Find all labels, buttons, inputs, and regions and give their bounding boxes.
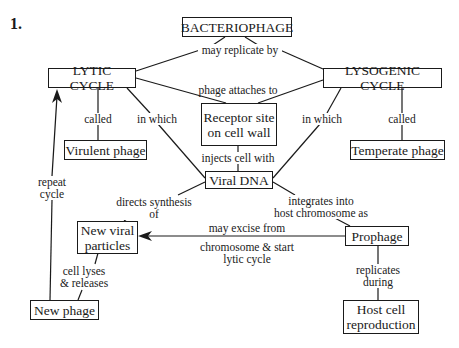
link-lytic-called: called: [83, 113, 113, 125]
link-integrates-into: integrates into host chromosome as: [270, 195, 372, 219]
link-chromosome-start-lytic: chromosome & start lytic cycle: [196, 241, 298, 265]
node-new-viral-particles: New viral particles: [77, 221, 138, 254]
link-lysogenic-in-which: in which: [300, 113, 344, 125]
link-directs-synthesis-of: directs synthesis of: [112, 196, 196, 220]
node-receptor-site: Receptor site on cell wall: [201, 103, 277, 146]
link-may-replicate-by: may replicate by: [198, 44, 282, 56]
link-cell-lyses-releases: cell lyses & releases: [58, 265, 110, 289]
link-phage-attaches-to: phage attaches to: [196, 84, 280, 96]
node-bacteriophage: BACTERIOPHAGE: [182, 17, 292, 37]
node-lytic-cycle: LYTIC CYCLE: [48, 68, 136, 88]
node-viral-dna: Viral DNA: [205, 171, 273, 189]
link-injects-cell-with: injects cell with: [196, 152, 280, 164]
node-temperate-phage: Temperate phage: [350, 140, 445, 160]
node-host-cell-reproduction: Host cell reproduction: [343, 300, 419, 334]
link-lysogenic-called: called: [387, 113, 417, 125]
node-lysogenic-cycle: LYSOGENIC CYCLE: [323, 68, 442, 88]
link-replicates-during: replicates during: [352, 264, 404, 288]
node-new-phage: New phage: [30, 300, 99, 320]
link-lytic-in-which: in which: [135, 113, 179, 125]
node-prophage: Prophage: [345, 226, 409, 246]
problem-number: 1.: [10, 15, 22, 33]
node-virulent-phage: Virulent phage: [64, 140, 147, 160]
link-repeat-cycle: repeat cycle: [34, 176, 70, 200]
link-may-excise-from: may excise from: [200, 222, 294, 234]
